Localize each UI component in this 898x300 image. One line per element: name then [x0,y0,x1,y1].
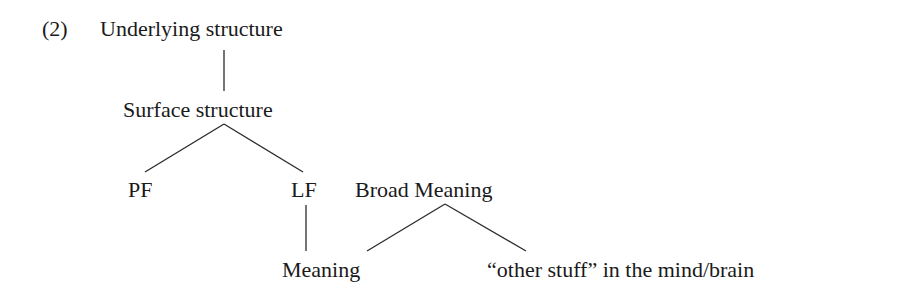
node-broad-meaning: Broad Meaning [355,177,492,203]
node-pf: PF [128,177,152,203]
node-other-stuff: “other stuff” in the mind/brain [487,257,754,283]
example-number: (2) [42,16,68,42]
node-lf: LF [291,177,317,203]
node-meaning: Meaning [282,257,360,283]
edge-broad-other [445,204,526,251]
edge-broad-meaning [367,204,445,251]
edge-surface-lf [224,124,303,172]
node-surface-structure: Surface structure [123,97,273,123]
tree-edges [0,0,898,300]
node-underlying-structure: Underlying structure [100,16,283,42]
edge-surface-pf [145,124,224,172]
